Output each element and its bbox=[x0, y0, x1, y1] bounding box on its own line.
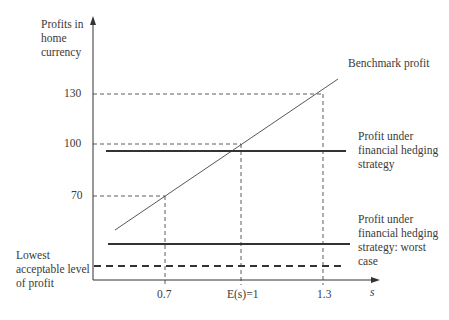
lowest-acceptable-label: Lowest acceptable level of profit bbox=[16, 248, 90, 290]
y-axis-arrow-icon bbox=[90, 16, 96, 25]
y-tick-130: 130 bbox=[64, 87, 81, 99]
benchmark-profit-line bbox=[115, 79, 338, 230]
y-tick-100: 100 bbox=[64, 137, 81, 149]
y-axis-label: Profits in home currency bbox=[41, 17, 84, 59]
y-tick-70: 70 bbox=[71, 189, 83, 201]
x-tick-1-3: 1.3 bbox=[317, 288, 331, 300]
benchmark-profit-label: Benchmark profit bbox=[348, 56, 429, 70]
x-axis-arrow-icon bbox=[371, 277, 380, 283]
x-tick-es-1: E(s)=1 bbox=[227, 288, 258, 300]
hedging-profit-label: Profit under financial hedging strategy bbox=[358, 129, 438, 171]
hedging-worst-case-label: Profit under financial hedging strategy:… bbox=[358, 212, 438, 268]
x-tick-0-7: 0.7 bbox=[157, 288, 171, 300]
x-axis-label: s bbox=[370, 286, 374, 298]
